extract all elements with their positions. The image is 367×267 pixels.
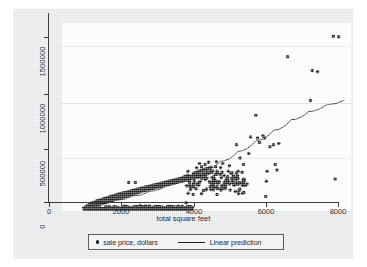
y-axis-line	[48, 13, 49, 203]
y-tick-label-1000000: 1000000	[38, 96, 47, 142]
y-tick-label-1500000: 1500000	[38, 39, 47, 85]
y-tick-label-500000: 500000	[38, 151, 47, 197]
legend-label-sale-price: sale price, dollars	[103, 239, 157, 246]
legend-entry-sale-price: sale price, dollars	[96, 239, 158, 246]
legend-entry-linear-prediction: Linear prediction	[178, 239, 262, 246]
linear-prediction-line	[87, 100, 344, 206]
chart-legend: sale price, dollars Linear prediction	[88, 234, 284, 250]
scatter-points-group	[82, 35, 340, 211]
chart-screenshot: 0 500000 1000000 1500000 0 2000 4000 600…	[0, 0, 367, 267]
legend-dot-icon	[96, 240, 99, 243]
plot-area	[62, 23, 351, 211]
scatter-plot-svg	[62, 23, 351, 211]
x-axis-title: total square feet	[0, 214, 367, 223]
legend-line-icon	[178, 242, 205, 243]
legend-label-linear-prediction: Linear prediction	[210, 239, 262, 246]
